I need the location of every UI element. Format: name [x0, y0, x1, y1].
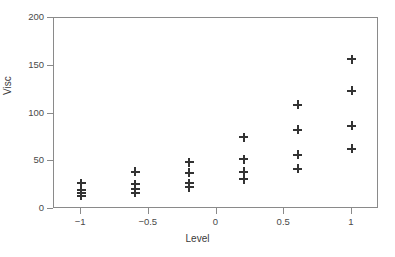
data-points-layer [54, 18, 377, 207]
data-point [293, 100, 302, 109]
data-point [185, 183, 194, 192]
y-tick-label: 100 [28, 108, 44, 118]
x-tick-mark [80, 208, 81, 214]
x-tick-mark [216, 208, 217, 214]
x-axis-label: Level [0, 233, 395, 244]
data-point [347, 144, 356, 153]
data-point [77, 191, 86, 200]
data-point [131, 167, 140, 176]
y-tick-label: 150 [28, 60, 44, 70]
x-tick-label: −1 [60, 216, 100, 227]
data-point [293, 150, 302, 159]
plot-area [53, 17, 378, 208]
x-tick-mark [351, 208, 352, 214]
data-point [239, 155, 248, 164]
data-point [239, 133, 248, 142]
y-axis-label: Visc [2, 76, 13, 95]
y-tick-label: 50 [33, 155, 44, 165]
data-point [293, 125, 302, 134]
x-tick-label: −0.5 [128, 216, 168, 227]
data-point [347, 86, 356, 95]
data-point [347, 121, 356, 130]
data-point [293, 164, 302, 173]
data-point [185, 158, 194, 167]
data-point [131, 188, 140, 197]
y-tick-mark [47, 208, 53, 209]
y-tick-label: 0 [39, 203, 44, 213]
data-point [185, 168, 194, 177]
x-tick-mark [148, 208, 149, 214]
x-tick-label: 0 [196, 216, 236, 227]
data-point [347, 55, 356, 64]
x-tick-label: 0.5 [263, 216, 303, 227]
x-tick-label: 1 [331, 216, 371, 227]
y-tick-label: 200 [28, 12, 44, 22]
scatter-plot-figure: Visc 050100150200 −1−0.500.51 Level [0, 0, 395, 257]
x-tick-mark [283, 208, 284, 214]
data-point [239, 175, 248, 184]
